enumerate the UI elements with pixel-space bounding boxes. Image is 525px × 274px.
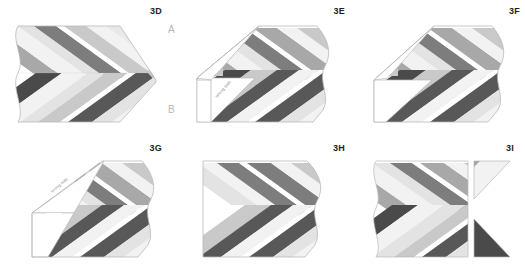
side-label-b: B [168, 104, 175, 115]
panel-3d-label: 3D [150, 6, 162, 16]
panel-3d: 3D [8, 18, 158, 130]
panel-3f-figure [368, 18, 518, 130]
panel-3h-figure [193, 155, 343, 267]
panel-3f: 3F [368, 18, 518, 130]
panel-3d-figure [8, 18, 158, 130]
panel-3i: 3I [360, 155, 520, 267]
panel-3g-label: 3G [150, 143, 162, 153]
panel-3e-label: 3E [334, 6, 345, 16]
side-label-a: A [168, 24, 175, 35]
panel-3f-label: 3F [509, 6, 520, 16]
panel-3h-label: 3H [333, 143, 345, 153]
panel-3h: 3H [193, 155, 343, 267]
panel-3i-figure [360, 155, 520, 267]
diagram-sheet: 3D A B [0, 0, 525, 274]
panel-3e-figure: wrong side [193, 18, 343, 130]
panel-3i-label: 3I [506, 143, 514, 153]
panel-3e: wrong side 3E [193, 18, 343, 130]
panel-3g: wrong side 3G [18, 155, 168, 267]
panel-3g-figure: wrong side [18, 155, 168, 267]
